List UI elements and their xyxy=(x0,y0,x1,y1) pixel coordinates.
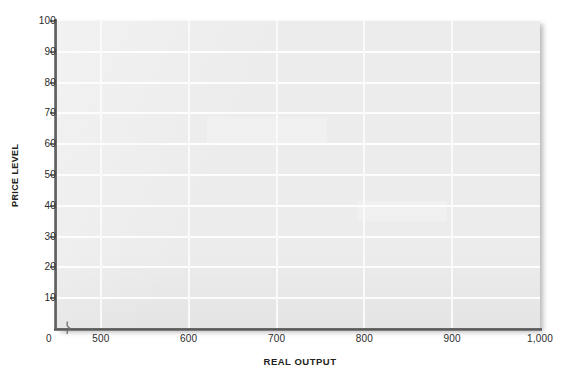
gridline-horizontal xyxy=(57,205,540,207)
y-tick-label: 50 xyxy=(16,170,56,180)
x-tick-label: 900 xyxy=(422,334,482,344)
chart-figure: 102030405060708090100 5006007008009001,0… xyxy=(0,0,575,388)
paper-smudge xyxy=(207,117,327,143)
x-axis-title: REAL OUTPUT xyxy=(0,356,575,367)
x-tick-label: 800 xyxy=(334,334,394,344)
gridline-horizontal xyxy=(57,51,540,53)
x-axis-break-icon xyxy=(64,320,74,333)
y-tick-label: 30 xyxy=(16,232,56,242)
x-tick-label: 700 xyxy=(247,334,307,344)
gridline-horizontal xyxy=(57,82,540,84)
gridline-vertical xyxy=(451,21,453,329)
gridline-vertical xyxy=(188,21,190,329)
gridline-vertical xyxy=(100,21,102,329)
gridline-horizontal xyxy=(57,112,540,114)
x-tick-label: 600 xyxy=(159,334,219,344)
y-tick-label: 80 xyxy=(16,78,56,88)
y-axis-title: PRICE LEVEL xyxy=(8,131,22,219)
y-tick-label: 70 xyxy=(16,108,56,118)
y-tick-label: 60 xyxy=(16,139,56,149)
plot-area xyxy=(57,21,540,329)
y-tick-label: 20 xyxy=(16,262,56,272)
gridline-horizontal xyxy=(57,297,540,299)
y-tick-label: 10 xyxy=(16,293,56,303)
y-tick-label: 90 xyxy=(16,47,56,57)
gridline-vertical xyxy=(276,21,278,329)
gridline-horizontal xyxy=(57,236,540,238)
x-origin-label: 0 xyxy=(19,334,79,344)
gridline-horizontal xyxy=(57,143,540,145)
y-tick-label: 40 xyxy=(16,201,56,211)
x-axis-line xyxy=(54,328,542,331)
gridline-vertical xyxy=(363,21,365,329)
gridline-horizontal xyxy=(57,266,540,268)
x-tick-label: 1,000 xyxy=(510,334,570,344)
x-tick-label: 500 xyxy=(71,334,131,344)
gridline-horizontal xyxy=(57,174,540,176)
y-tick-label: 100 xyxy=(16,16,56,26)
